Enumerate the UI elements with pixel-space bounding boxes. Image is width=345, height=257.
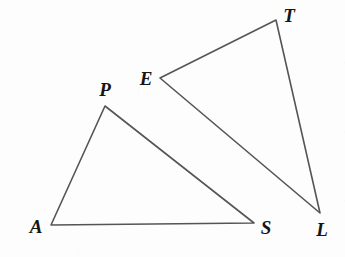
vertex-label-a: A bbox=[30, 217, 43, 236]
triangle-etl bbox=[160, 20, 320, 213]
vertex-label-e: E bbox=[140, 69, 153, 88]
vertex-label-t: T bbox=[283, 6, 295, 25]
triangle-aps bbox=[51, 106, 254, 225]
vertex-label-p: P bbox=[99, 80, 111, 99]
vertex-label-s: S bbox=[261, 218, 272, 237]
figure-canvas bbox=[0, 0, 345, 257]
geometry-figure: A P S E T L bbox=[0, 0, 345, 257]
vertex-label-l: L bbox=[316, 220, 328, 239]
